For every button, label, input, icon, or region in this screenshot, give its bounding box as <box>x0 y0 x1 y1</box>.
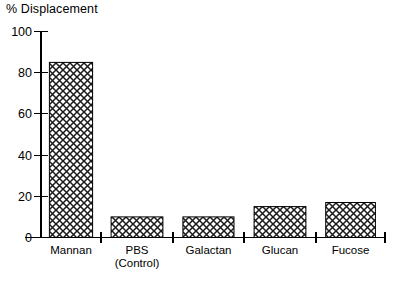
y-tick-label: 40 <box>18 149 32 163</box>
bar <box>326 203 376 238</box>
y-tick-label: 0 <box>25 231 32 245</box>
bar-series <box>49 62 375 237</box>
x-category-label: Mannan <box>50 244 92 256</box>
y-axis-tick-labels: 100 80 60 40 20 0 <box>11 25 32 245</box>
y-tick-label: 100 <box>11 25 32 39</box>
bar <box>254 207 306 238</box>
bar <box>49 62 92 237</box>
bar-chart: % Displacement 100 80 60 40 20 <box>0 0 401 285</box>
bar <box>183 217 234 238</box>
x-category-label: Fucose <box>332 244 370 256</box>
y-tick-label: 20 <box>18 190 32 204</box>
y-tick-label: 60 <box>18 107 32 121</box>
chart-plot-area: 100 80 60 40 20 0 MannanPBS(Control)Gala… <box>0 0 401 285</box>
x-category-label: Glucan <box>262 244 298 256</box>
y-tick-label: 80 <box>18 66 32 80</box>
x-category-label: (Control) <box>115 257 160 269</box>
bar <box>111 217 163 238</box>
x-category-label: PBS <box>125 244 148 256</box>
x-axis-category-labels: MannanPBS(Control)GalactanGlucanFucose <box>50 244 369 269</box>
x-category-label: Galactan <box>185 244 231 256</box>
